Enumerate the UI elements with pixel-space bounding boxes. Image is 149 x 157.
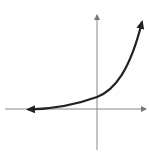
exponential-curve <box>28 22 142 110</box>
graph-canvas <box>0 0 149 157</box>
exponential-graph <box>0 0 149 157</box>
